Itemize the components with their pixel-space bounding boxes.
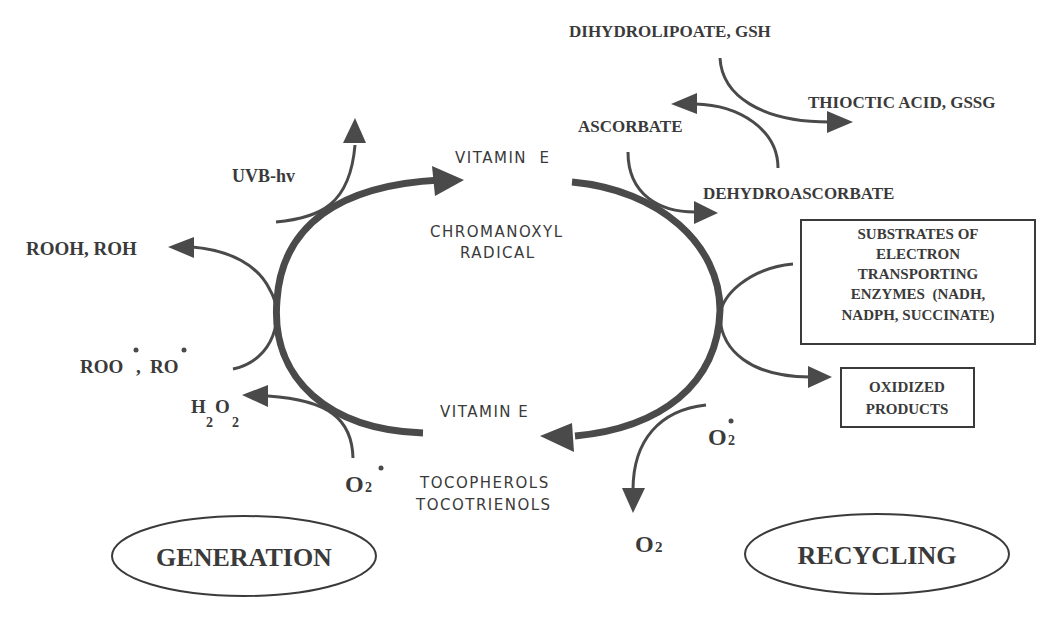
- rooh-roh-label: ROOH, ROH: [26, 238, 137, 259]
- svg-text:ELECTRON: ELECTRON: [876, 246, 960, 262]
- superoxide-recycling-label: O 2: [708, 419, 735, 451]
- oxygen-label: O 2: [635, 531, 663, 557]
- rooh-arrowhead: [168, 237, 194, 258]
- oxidized-products-arrow: [720, 264, 810, 377]
- radical-dot: [182, 348, 187, 353]
- vitamin-e-top-label: VITAMIN E: [455, 149, 551, 167]
- radical-dot: [729, 419, 734, 424]
- recycling-ellipse: RECYCLING: [745, 514, 1009, 594]
- ascorbate-regeneration-arrowhead: [671, 93, 697, 114]
- svg-text:2: 2: [232, 415, 239, 430]
- svg-text:2: 2: [365, 480, 372, 495]
- rooh-arrow: [192, 247, 277, 369]
- superoxide-generation-label: O 2: [345, 466, 384, 498]
- h2o2-arrowhead: [242, 385, 268, 407]
- dehydroascorbate-label: DEHYDROASCORBATE: [703, 184, 894, 203]
- svg-text:ENZYMES (NADH,: ENZYMES (NADH,: [851, 286, 986, 303]
- chromanoxyl-label: CHROMANOXYL: [430, 223, 564, 241]
- oxidized-products-arrowhead: [808, 366, 832, 388]
- tocotrienols-label: TOCOTRIENOLS: [415, 496, 552, 514]
- svg-text:O: O: [345, 471, 364, 497]
- svg-text:2: 2: [728, 433, 735, 448]
- vitamin-e-bottom-label: VITAMIN E: [440, 403, 529, 421]
- uvb-arrowhead: [343, 118, 366, 143]
- ascorbate-regeneration-arrow: [695, 104, 778, 168]
- main-cycle-top-arrowhead: [432, 166, 464, 196]
- svg-text:O: O: [635, 531, 654, 557]
- main-cycle-bottom-arrowhead: [540, 423, 574, 452]
- svg-text:2: 2: [655, 539, 663, 555]
- radical-dot: [379, 466, 384, 471]
- uvb-label: UVB-hv: [232, 166, 295, 186]
- recycling-title: RECYCLING: [798, 541, 957, 570]
- generation-title: GENERATION: [156, 543, 332, 572]
- dihydrolipoate-label: DIHYDROLIPOATE, GSH: [569, 22, 771, 41]
- h2o2-arrow: [268, 396, 353, 458]
- radical-dot: [134, 348, 139, 353]
- svg-text:,: ,: [136, 356, 141, 377]
- substrates-box: SUBSTRATES OF ELECTRON TRANSPORTING ENZY…: [801, 220, 1035, 344]
- thioctic-acid-label: THIOCTIC ACID, GSSG: [808, 93, 996, 112]
- svg-text:OXIDIZED: OXIDIZED: [869, 379, 945, 395]
- h2o2-label: H 2 O 2: [191, 396, 239, 430]
- dehydroascorbate-arrowhead: [694, 201, 718, 224]
- svg-text:O: O: [215, 396, 230, 417]
- svg-text:NADPH, SUCCINATE): NADPH, SUCCINATE): [841, 307, 994, 324]
- oxygen-arrowhead: [622, 488, 645, 513]
- tocopherols-label: TOCOPHEROLS: [419, 474, 550, 492]
- radical-label: RADICAL: [460, 244, 536, 262]
- svg-text:TRANSPORTING: TRANSPORTING: [858, 266, 979, 282]
- generation-ellipse: GENERATION: [112, 516, 376, 596]
- svg-text:2: 2: [206, 415, 213, 430]
- svg-text:H: H: [191, 396, 206, 417]
- ascorbate-label: ASCORBATE: [578, 117, 683, 136]
- oxidized-products-box: OXIDIZED PRODUCTS: [841, 368, 974, 427]
- dehydroascorbate-arrow: [628, 152, 695, 212]
- ro-label: RO: [150, 356, 179, 377]
- svg-text:PRODUCTS: PRODUCTS: [866, 401, 949, 417]
- roo-label: ROO: [80, 356, 123, 377]
- svg-text:O: O: [708, 424, 727, 450]
- roo-ro-radicals-label: ROO , RO: [80, 348, 187, 378]
- svg-text:SUBSTRATES OF: SUBSTRATES OF: [857, 226, 978, 242]
- vitamin-e-cycle-diagram: VITAMIN E CHROMANOXYL RADICAL VITAMIN E …: [0, 0, 1061, 624]
- thioctic-arrowhead: [827, 111, 853, 133]
